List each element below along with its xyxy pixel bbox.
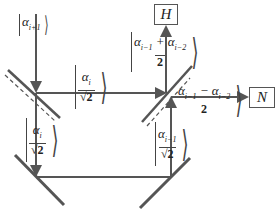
output-H-label: H — [154, 4, 178, 25]
interferometer-diagram: H N αi+1 ⟩ αi √2 ⟩ αi √2 ⟩ αi−1 √2 ⟩ — [0, 0, 277, 213]
reflected-state-ket: αi √2 ⟩ — [26, 118, 62, 162]
right-state-ket: αi−1 √2 ⟩ — [155, 122, 193, 166]
input-state-ket: αi+1 ⟩ — [19, 14, 51, 36]
transmitted-state-ket: αi √2 ⟩ — [75, 65, 111, 109]
beam-splitter-left — [5, 70, 60, 121]
output-N-label: N — [249, 87, 275, 108]
mirror-bottom-left — [15, 155, 64, 205]
output-H-state-ket: αi−1 + αi−2 2 ⟩ — [131, 32, 202, 72]
output-N-state-ket: αi−1 − αi−2 2 ⟩ — [176, 80, 246, 120]
